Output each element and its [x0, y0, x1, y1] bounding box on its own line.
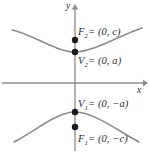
y-axis-label: y — [66, 2, 70, 12]
label-focus-lower: F1= (0, −c) — [78, 134, 128, 147]
label-vertex-upper: V2= (0, a) — [78, 56, 121, 69]
figure-canvas — [0, 0, 149, 153]
point-focus-lower — [72, 124, 78, 130]
label-focus-upper: F2= (0, c) — [78, 27, 121, 40]
label-vertex-upper-text: = (0, a) — [88, 55, 121, 66]
label-focus-lower-text: = (0, −c) — [88, 133, 128, 144]
label-focus-upper-text: = (0, c) — [88, 26, 121, 37]
y-axis-arrow-icon — [72, 4, 79, 10]
label-vertex-lower: V1= (0, −a) — [78, 99, 128, 112]
hyperbola-figure: F2= (0, c) V2= (0, a) V1= (0, −a) F1= (0… — [0, 0, 149, 153]
x-axis-arrow-icon — [143, 80, 148, 87]
x-axis-label: x — [137, 86, 141, 96]
label-vertex-lower-text: = (0, −a) — [88, 98, 128, 109]
